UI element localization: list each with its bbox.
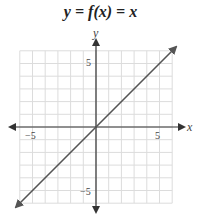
x-tick-neg5: −5 [25, 130, 36, 141]
graph: y x −5 5 5 −5 [0, 0, 201, 214]
y-tick-5: 5 [86, 57, 91, 68]
x-axis-label: x [186, 120, 193, 134]
y-axis-label: y [92, 26, 99, 40]
x-tick-5: 5 [155, 130, 160, 141]
y-tick-neg5: −5 [80, 186, 91, 197]
